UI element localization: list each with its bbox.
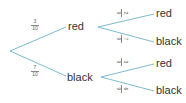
prob-numerator: 2	[123, 12, 128, 15]
prob-black-black: 6 9	[116, 85, 128, 93]
prob-denominator: 10	[32, 26, 38, 31]
prob-denominator: 9	[116, 61, 121, 64]
prob-numerator: 6	[123, 88, 128, 91]
outcome-red-red: red	[156, 8, 172, 19]
outcome-black-red: red	[156, 58, 172, 69]
prob-numerator: 3	[123, 61, 128, 64]
prob-black: 7 10	[31, 65, 39, 77]
outcome-black-black: black	[156, 85, 182, 96]
prob-red-red: 2 9	[116, 9, 128, 17]
prob-denominator: 10	[32, 72, 38, 77]
prob-numerator: 7	[123, 38, 128, 41]
prob-red: 3 10	[31, 19, 39, 31]
prob-denominator: 9	[116, 12, 121, 15]
prob-black-red: 3 9	[116, 58, 128, 66]
prob-denominator: 9	[116, 38, 121, 41]
outcome-red-black: black	[156, 36, 182, 47]
prob-numerator: 7	[34, 65, 37, 70]
outcome-red: red	[68, 21, 84, 32]
prob-denominator: 9	[116, 88, 121, 91]
outcome-black: black	[67, 72, 93, 83]
prob-numerator: 3	[34, 19, 37, 24]
prob-red-black: 7 9	[116, 35, 128, 43]
